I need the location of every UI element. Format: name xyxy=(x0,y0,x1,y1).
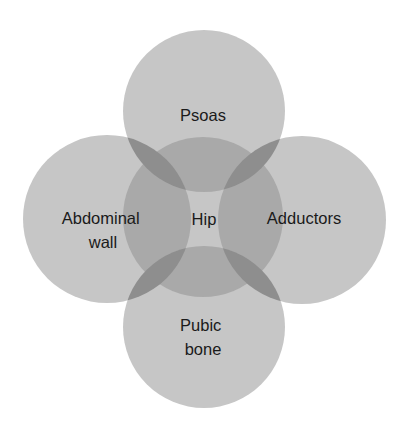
label-hip: Hip xyxy=(192,210,217,228)
label-adductors: Adductors xyxy=(267,209,341,227)
hip-venn-diagram: Psoas Abdominal wall Hip Adductors Pubic… xyxy=(0,0,407,427)
label-psoas: Psoas xyxy=(180,106,226,124)
label-abdominal-wall-line2: wall xyxy=(88,233,117,251)
label-pubic-bone-line2: bone xyxy=(185,340,222,358)
label-pubic-bone-line1: Pubic xyxy=(180,316,221,334)
label-abdominal-wall-line1: Abdominal xyxy=(62,209,140,227)
